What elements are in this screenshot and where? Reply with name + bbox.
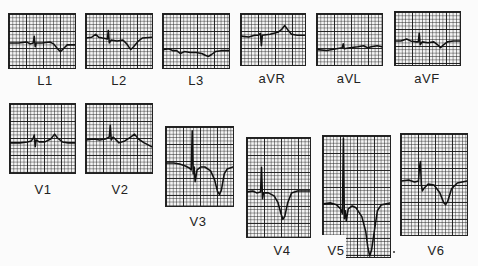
ecg-trace-v6 [401,134,467,235]
ecg-strip-l2 [85,13,153,69]
lead-label-v3: V3 [190,214,207,229]
ecg-strip-v6 [400,133,468,236]
ecg-strip-avl [316,13,383,66]
lead-label-avl: aVL [337,71,362,86]
lead-label-v4: V4 [274,243,291,258]
ecg-trace-l3 [163,14,229,68]
ecg-trace-l1 [9,14,75,68]
stray-mark [393,251,395,253]
lead-label-v2: V2 [112,182,129,197]
ecg-strip-l3 [162,13,230,69]
lead-label-v6: V6 [428,243,445,258]
ecg-trace-avf [395,12,460,65]
ecg-trace-v1 [10,104,75,173]
ecg-strip-v5 [322,135,391,258]
lead-label-l3: L3 [188,73,203,88]
ecg-strip-v2 [85,103,153,174]
ecg-trace-v4 [247,138,310,237]
lead-label-l1: L1 [37,73,52,88]
ecg-strip-avr [240,13,306,66]
ecg-strip-v1 [9,103,76,174]
lead-label-l2: L2 [111,73,126,88]
lead-label-v1: V1 [35,182,52,197]
ecg-trace-l2 [86,14,152,68]
ecg-trace-v3 [166,127,233,206]
lead-label-v5: V5 [328,243,345,258]
ecg-strip-l1 [8,13,76,69]
ecg-strip-v4 [246,137,311,238]
lead-label-avf: aVF [414,71,439,86]
ecg-trace-avr [241,14,305,65]
ecg-trace-avl [317,14,382,65]
ecg-strip-v3 [165,126,234,207]
ecg-trace-v2 [86,104,152,173]
ecg-strip-avf [394,11,461,66]
lead-label-avr: aVR [259,71,286,86]
